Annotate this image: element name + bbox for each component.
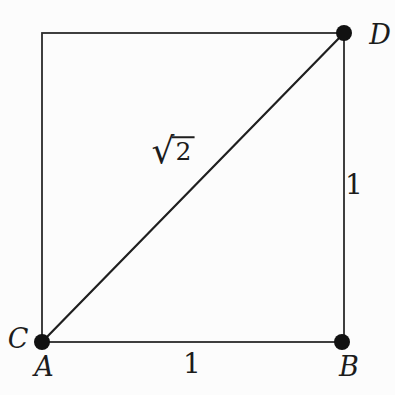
vertex-label-d: D (369, 21, 391, 48)
radical-sign-icon: √ (152, 136, 173, 166)
geometry-figure: C A B D 1 1 √2 (0, 0, 395, 395)
vertex-label-c: C (8, 325, 29, 352)
vertex-label-a: A (34, 353, 54, 380)
side-right-length-label: 1 (345, 171, 363, 199)
diagonal-line (42, 33, 344, 342)
vertex-dot-b (334, 334, 350, 350)
vertex-dot-a-c (34, 334, 50, 350)
side-bottom-length-label: 1 (183, 350, 201, 378)
diagonal-length-label: √2 (152, 136, 195, 166)
vertex-dot-d (336, 25, 352, 41)
radicand: 2 (172, 136, 195, 165)
vertex-label-b: B (339, 353, 359, 380)
figure-canvas (0, 0, 395, 395)
